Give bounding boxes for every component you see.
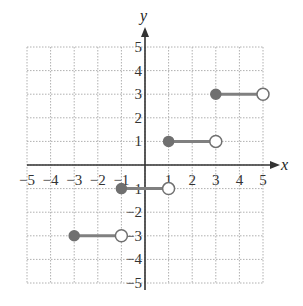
- closed-dot: [69, 231, 79, 241]
- open-dot: [210, 135, 222, 147]
- y-tick-label: 5: [135, 39, 143, 55]
- x-tick-label: 5: [259, 172, 267, 188]
- closed-dot: [116, 184, 126, 194]
- axes: [27, 27, 280, 290]
- y-tick-label: 4: [135, 63, 143, 79]
- x-tick-label: −4: [43, 172, 59, 188]
- x-tick-label: −3: [66, 172, 82, 188]
- closed-dot: [211, 89, 221, 99]
- x-tick-label: 3: [212, 172, 220, 188]
- x-tick-label: −2: [90, 172, 106, 188]
- y-tick-label: 3: [135, 86, 143, 102]
- y-axis-arrow-icon: [141, 27, 149, 37]
- y-axis-label: y: [138, 7, 148, 25]
- y-tick-label: −5: [126, 275, 142, 291]
- open-dot: [257, 88, 269, 100]
- y-tick-label: 2: [135, 110, 143, 126]
- y-tick-label: −4: [126, 251, 142, 267]
- y-tick-label: 1: [135, 133, 143, 149]
- x-tick-label: 2: [188, 172, 196, 188]
- open-dot: [115, 230, 127, 242]
- y-tick-label: −3: [126, 228, 142, 244]
- x-tick-label: −5: [19, 172, 35, 188]
- step-function-chart: −5−4−3−2−11234554321−1−2−3−4−5 x y: [0, 0, 303, 306]
- open-dot: [163, 183, 175, 195]
- closed-dot: [164, 136, 174, 146]
- x-axis-arrow-icon: [270, 161, 280, 169]
- y-tick-label: −2: [126, 204, 142, 220]
- x-tick-label: 4: [236, 172, 244, 188]
- x-axis-label: x: [280, 156, 288, 173]
